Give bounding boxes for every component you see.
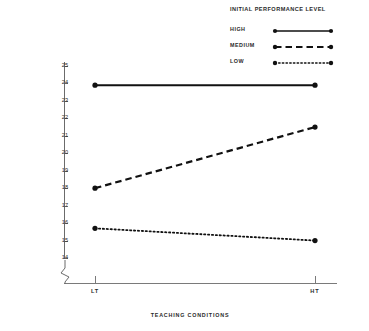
data-point-low-lt <box>92 226 97 231</box>
x-tick-ht <box>315 276 316 284</box>
y-tick-label-text: 21 <box>54 132 68 138</box>
x-axis-line <box>64 283 337 284</box>
y-tick-label-text: 25 <box>54 62 68 68</box>
data-point-low-ht <box>312 238 317 243</box>
y-tick-label-text: 16 <box>54 219 68 225</box>
y-tick-label-19: 19 <box>46 167 68 175</box>
legend-entry-low: LOW <box>228 58 366 70</box>
x-axis-title: TEACHING CONDITIONS <box>110 312 270 318</box>
legend-entry-medium: MEDIUM <box>228 42 366 54</box>
y-tick-label-15: 15 <box>46 237 68 245</box>
y-axis-line <box>64 62 65 258</box>
chart-legend: INITIAL PERFORMANCE LEVEL HIGH MEDIUM LO… <box>228 6 366 12</box>
legend-label-medium: MEDIUM <box>230 42 255 48</box>
y-tick-label-18: 18 <box>46 184 68 192</box>
y-tick-label-22: 22 <box>46 114 68 122</box>
data-point-high-lt <box>92 83 97 88</box>
data-point-medium-lt <box>92 186 97 191</box>
series-line-medium <box>95 127 315 188</box>
data-point-medium-ht <box>312 124 317 129</box>
legend-swatch-dashed-icon <box>272 43 334 51</box>
legend-swatch-solid-icon <box>272 27 334 35</box>
legend-entry-high: HIGH <box>228 26 366 38</box>
y-tick-label-text: 14 <box>54 254 68 260</box>
y-tick-label-23: 23 <box>46 97 68 105</box>
legend-label-low: LOW <box>230 58 244 64</box>
series-line-low <box>95 228 315 240</box>
y-tick-label-text: 17 <box>54 202 68 208</box>
y-tick-label-text: 19 <box>54 167 68 173</box>
y-tick-label-text: 15 <box>54 237 68 243</box>
y-tick-label-25: 25 <box>46 62 68 70</box>
x-tick-label-ht: HT <box>300 288 330 294</box>
y-tick-label-24: 24 <box>46 79 68 87</box>
y-tick-label-16: 16 <box>46 219 68 227</box>
y-tick-label-text: 20 <box>54 149 68 155</box>
y-tick-label-text: 22 <box>54 114 68 120</box>
y-tick-label-text: 24 <box>54 79 68 85</box>
x-tick-label-lt: LT <box>80 288 110 294</box>
series-high <box>92 83 317 88</box>
y-tick-label-20: 20 <box>46 149 68 157</box>
x-tick-lt <box>95 276 96 284</box>
chart-figure: INITIAL PERFORMANCE LEVEL HIGH MEDIUM LO… <box>0 0 369 331</box>
series-medium <box>92 124 317 190</box>
legend-title: INITIAL PERFORMANCE LEVEL <box>230 6 366 12</box>
y-tick-label-14: 14 <box>46 254 68 262</box>
y-tick-label-text: 18 <box>54 184 68 190</box>
legend-swatch-dotted-icon <box>272 59 334 67</box>
legend-label-high: HIGH <box>230 26 245 32</box>
y-tick-label-text: 23 <box>54 97 68 103</box>
y-tick-label-21: 21 <box>46 132 68 140</box>
data-point-high-ht <box>312 83 317 88</box>
y-tick-label-17: 17 <box>46 202 68 210</box>
series-low <box>92 226 317 243</box>
